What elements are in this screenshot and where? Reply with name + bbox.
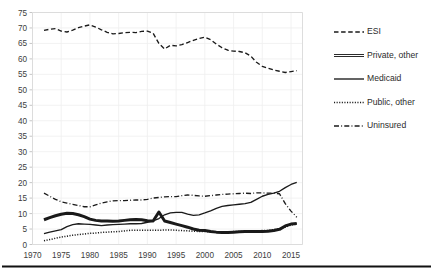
x-tick-label: 2015 xyxy=(282,251,301,260)
legend-label-private-other: Private, other xyxy=(367,50,418,60)
y-tick-label: 75 xyxy=(18,9,28,18)
x-tick-label: 1990 xyxy=(138,251,157,260)
y-tick-label: 60 xyxy=(18,55,28,64)
series-line-esi xyxy=(44,25,297,73)
x-tick-label: 2000 xyxy=(196,251,215,260)
y-tick-label: 65 xyxy=(18,39,28,48)
line-chart: 051015202530354045505560657075 197019751… xyxy=(0,0,433,278)
grid-lines xyxy=(30,13,303,245)
legend-item-medicaid[interactable]: Medicaid xyxy=(334,73,402,83)
y-tick-label: 55 xyxy=(18,70,28,79)
x-tick-label: 1985 xyxy=(110,251,129,260)
y-tick-label: 15 xyxy=(18,194,28,203)
x-axis-tick-labels: 1970197519801985199019952000200520102015 xyxy=(23,251,300,260)
x-tick-label: 1995 xyxy=(167,251,186,260)
y-tick-label: 25 xyxy=(18,163,28,172)
y-tick-label: 20 xyxy=(18,179,28,188)
legend-label-uninsured: Uninsured xyxy=(367,120,406,130)
x-tick-label: 1970 xyxy=(23,251,42,260)
legend-item-uninsured[interactable]: Uninsured xyxy=(334,120,406,130)
y-tick-label: 5 xyxy=(22,225,27,234)
y-tick-label: 35 xyxy=(18,132,28,141)
x-tick-label: 2010 xyxy=(253,251,272,260)
y-tick-label: 30 xyxy=(18,148,28,157)
series-line-medicaid xyxy=(44,182,297,233)
x-tick-label: 1980 xyxy=(81,251,100,260)
legend-label-medicaid: Medicaid xyxy=(367,73,402,83)
legend-item-esi[interactable]: ESI xyxy=(334,26,381,36)
y-tick-label: 0 xyxy=(22,241,27,250)
y-tick-label: 10 xyxy=(18,210,28,219)
legend-label-public-other: Public, other xyxy=(367,97,415,107)
chart-legend: ESIPrivate, otherMedicaidPublic, otherUn… xyxy=(334,26,418,130)
y-tick-label: 45 xyxy=(18,101,28,110)
y-tick-label: 50 xyxy=(18,86,28,95)
x-tick-label: 2005 xyxy=(224,251,243,260)
y-tick-label: 70 xyxy=(18,24,28,33)
chart-container: 051015202530354045505560657075 197019751… xyxy=(0,0,433,278)
legend-item-private-other[interactable]: Private, other xyxy=(334,50,418,60)
y-tick-label: 40 xyxy=(18,117,28,126)
legend-label-esi: ESI xyxy=(367,26,381,36)
y-axis-tick-labels: 051015202530354045505560657075 xyxy=(18,9,28,250)
data-series-group xyxy=(44,25,297,241)
x-tick-label: 1975 xyxy=(52,251,71,260)
legend-item-public-other[interactable]: Public, other xyxy=(334,97,415,107)
